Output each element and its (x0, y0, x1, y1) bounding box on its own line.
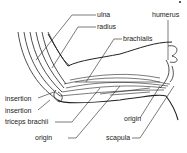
label-triceps-brachii: triceps brachii (5, 118, 48, 126)
forearm-bones (18, 32, 70, 100)
label-radius: radius (97, 23, 116, 31)
label-humerus: humerus (152, 11, 179, 19)
humerus-head (160, 46, 177, 88)
upper-arm-outline (48, 34, 172, 66)
label-brachialis: brachialis (123, 35, 153, 43)
label-ulna: ulna (97, 11, 110, 19)
label-insertion-2: insertion (5, 107, 31, 115)
label-scapula: scapula (106, 134, 130, 142)
label-origin-left: origin (35, 134, 52, 142)
label-origin-right: origin (124, 115, 141, 123)
label-insertion-1: insertion (5, 95, 31, 103)
muscle-body (60, 74, 170, 96)
top-mark (179, 1, 181, 3)
arm-muscle-diagram (0, 0, 187, 153)
